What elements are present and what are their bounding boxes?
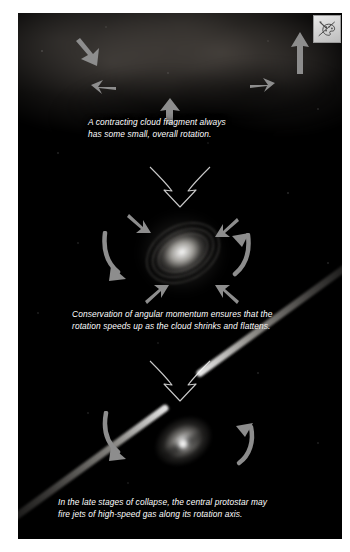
cloud-infall-arrow-top-left [74, 35, 104, 69]
protostar-rotation-arrow-left [102, 411, 132, 463]
protostar-core [174, 435, 192, 453]
disk-rotation-arrow-right [222, 233, 252, 283]
image-placeholder-badge[interactable] [313, 15, 341, 43]
caption-protostellar-jets: In the late stages of collapse, the cent… [58, 497, 308, 520]
star-field-plate: A contracting cloud fragment always has … [18, 13, 342, 539]
disk-infall-arrow-bottom-right [214, 281, 240, 307]
disk-rotation-arrow-left [102, 231, 132, 283]
caption-contracting-cloud: A contracting cloud fragment always has … [88, 117, 278, 140]
cloud-infall-arrow-right [248, 71, 276, 97]
cloud-infall-arrow-left [90, 73, 118, 99]
protostar-group [124, 391, 242, 497]
cloud-infall-arrow-top-right [290, 31, 310, 75]
palette-brush-icon [317, 19, 337, 39]
astronomy-figure: A contracting cloud fragment always has … [0, 0, 350, 552]
disk-infall-arrow-bottom-left [144, 281, 170, 307]
protostar-rotation-arrow-right [226, 421, 256, 469]
